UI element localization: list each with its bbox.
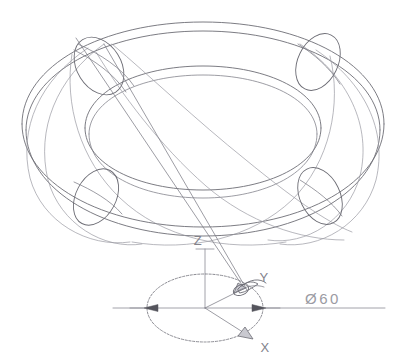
axis-x-label: X [260, 340, 269, 355]
torus-sweep-arc-6 [96, 52, 344, 240]
diameter-dimension-label: Ø60 [305, 290, 341, 307]
torus-wireframe [22, 22, 384, 245]
cross-section-upper-right [287, 26, 349, 97]
torus-inner-top-arc-offset [89, 75, 317, 134]
torus-sweep-arc-1 [27, 48, 130, 243]
cross-section-ellipse-ur [287, 26, 349, 97]
cross-section-lr-chord [300, 180, 342, 216]
torus-outer-top-arc-lower [26, 31, 380, 130]
leader-line-short [104, 44, 247, 290]
cad-drawing-canvas: Z Ø60 Y X [0, 0, 406, 360]
cross-section-ll-chord [74, 182, 122, 214]
cross-section-ul-chord-2 [78, 44, 134, 86]
axis-y-group: Y [205, 270, 269, 308]
axis-z-label: Z [194, 233, 202, 248]
axis-z-group: Z [194, 233, 214, 308]
torus-sweep-arc-8 [132, 56, 334, 245]
torus-inner-bottom-arc [85, 128, 321, 190]
torus-outer-top-arc-upper [22, 22, 384, 124]
torus-inner-bottom-arc-offset [89, 134, 317, 198]
dimension-arrow-left [144, 305, 158, 312]
axis-y-label: Y [259, 270, 268, 285]
axis-x-group: X [205, 308, 270, 355]
torus-sweep-arc-3 [280, 50, 379, 245]
dimension-arrow-right [252, 305, 266, 312]
torus-sweep-arc-7 [70, 54, 286, 245]
torus-sweep-arc-2 [45, 44, 142, 245]
diameter-dimension-group: Ø60 [113, 290, 385, 312]
